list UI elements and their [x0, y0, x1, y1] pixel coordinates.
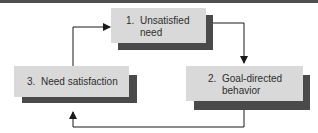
node-2-goal-directed-behavior: 2.Goal-directed behavior [186, 66, 303, 101]
node-3-label: Need satisfaction [41, 76, 118, 87]
node-1-unsatisfied-need: 1.Unsatisfied need [111, 8, 206, 43]
node-1-label-line2: need [126, 27, 206, 39]
arrow-2-to-3 [73, 110, 244, 127]
arrow-1-to-2 [213, 23, 244, 63]
node-2-label: Goal-directed [222, 73, 282, 84]
node-3-need-satisfaction: 3.Need satisfaction [14, 66, 129, 97]
node-1-line1: 1.Unsatisfied [126, 15, 206, 27]
node-3-number: 3. [27, 76, 41, 88]
node-2-label-line2: behavior [208, 85, 303, 97]
arrow-3-to-1 [73, 27, 110, 66]
node-3-line1: 3.Need satisfaction [27, 76, 129, 88]
node-1-label: Unsatisfied [140, 15, 189, 26]
node-2-line1: 2.Goal-directed [208, 73, 303, 85]
node-2-number: 2. [208, 73, 222, 85]
node-1-number: 1. [126, 15, 140, 27]
